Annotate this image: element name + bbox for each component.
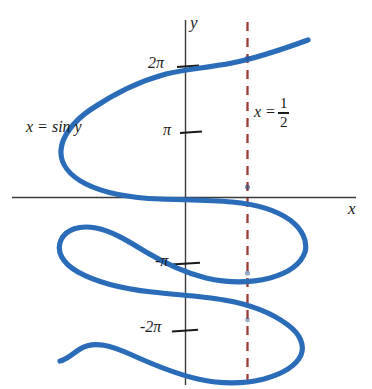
curve-equation-label: x = sin y [26, 119, 82, 135]
tick-mark-pi [180, 132, 202, 134]
fraction-denominator: 2 [278, 115, 290, 130]
vertical-line-equation-label: x = 1 2 [254, 95, 289, 129]
intersection-marker [245, 55, 250, 60]
intersection-marker [245, 184, 250, 189]
x-axis-label: x [348, 200, 356, 217]
intersection-marker [245, 270, 250, 275]
tick-mark-neg-pi [171, 263, 200, 265]
intersection-marker [245, 318, 250, 323]
fraction-one-half: 1 2 [278, 96, 290, 130]
y-tick-label-pi: π [163, 122, 171, 138]
y-tick-label-negative-pi: -π [155, 253, 168, 269]
vline-equation-lhs: x = [254, 104, 276, 120]
graph-canvas [0, 0, 372, 389]
y-axis-label: y [190, 14, 198, 31]
fraction-numerator: 1 [278, 96, 290, 111]
y-tick-label-2pi: 2π [148, 55, 164, 71]
tick-mark-neg-2pi [172, 330, 198, 332]
y-tick-label-negative-2pi: -2π [140, 319, 161, 335]
